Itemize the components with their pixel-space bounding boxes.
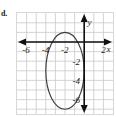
y-axis-label: y	[87, 17, 92, 27]
x-tick-label-neg2: -2	[61, 45, 69, 55]
problem-label: d.	[1, 10, 7, 18]
x-tick-label-neg6: -6	[22, 45, 30, 55]
y-axis	[81, 14, 88, 113]
coordinate-plane-svg: -6 -4 -2 2 -2 -4 -6 x y	[17, 13, 113, 114]
figure-container: d.	[0, 0, 116, 117]
y-tick-label-neg4: -4	[73, 76, 81, 86]
graph-figure: -6 -4 -2 2 -2 -4 -6 x y	[16, 12, 114, 115]
grid-lines	[17, 13, 113, 114]
y-tick-label-neg2: -2	[73, 57, 81, 67]
x-tick-label-neg4: -4	[42, 45, 50, 55]
y-tick-label-neg6: -6	[73, 95, 81, 105]
x-axis-label: x	[106, 44, 111, 54]
